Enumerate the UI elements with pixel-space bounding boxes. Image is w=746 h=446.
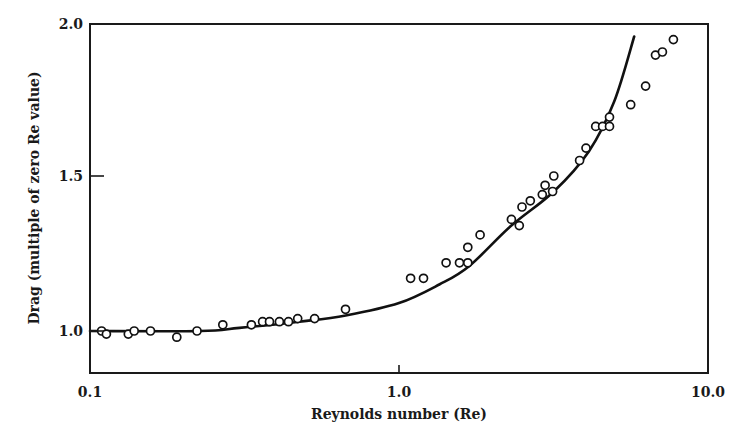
data-point	[275, 318, 283, 326]
data-point	[147, 327, 155, 335]
data-point	[658, 48, 666, 56]
y-tick-label: 1.5	[59, 168, 83, 184]
data-point	[538, 191, 546, 199]
data-point	[476, 231, 484, 239]
y-tick-label: 2.0	[59, 16, 84, 32]
y-axis-ticks: 1.01.52.0	[59, 16, 104, 339]
data-point	[526, 197, 534, 205]
data-point	[173, 333, 181, 341]
data-point	[642, 82, 650, 90]
data-point	[407, 274, 415, 282]
x-axis-ticks: 0.11.010.0	[78, 365, 725, 400]
x-tick-label: 0.1	[78, 384, 102, 400]
data-point	[420, 274, 428, 282]
data-point	[193, 327, 201, 335]
data-point	[515, 222, 523, 230]
data-point	[606, 113, 614, 121]
data-point	[576, 157, 584, 165]
x-axis-title: Reynolds number (Re)	[311, 406, 487, 422]
data-point	[342, 305, 350, 313]
data-point	[464, 243, 472, 251]
data-point	[311, 315, 319, 323]
data-point	[669, 36, 677, 44]
y-tick-label: 1.0	[59, 323, 84, 339]
data-point	[266, 318, 274, 326]
theory-curve	[90, 37, 634, 332]
data-point	[247, 321, 255, 329]
data-point	[549, 188, 557, 196]
x-tick-label: 10.0	[691, 384, 725, 400]
data-point	[285, 318, 293, 326]
data-point	[518, 203, 526, 211]
drag-vs-reynolds-chart: 1.01.52.0 0.11.010.0 Reynolds number (Re…	[0, 0, 746, 446]
data-point	[219, 321, 227, 329]
data-point	[606, 122, 614, 130]
data-point	[130, 327, 138, 335]
data-point	[507, 215, 515, 223]
data-point	[294, 315, 302, 323]
x-tick-label: 1.0	[387, 384, 412, 400]
data-point	[550, 172, 558, 180]
data-point	[541, 181, 549, 189]
plot-frame	[90, 24, 708, 373]
data-point	[456, 259, 464, 267]
data-point	[627, 101, 635, 109]
data-point	[442, 259, 450, 267]
plot-area	[90, 36, 677, 342]
data-point	[464, 259, 472, 267]
y-axis-title: Drag (multiple of zero Re value)	[26, 71, 42, 324]
data-point	[582, 144, 590, 152]
